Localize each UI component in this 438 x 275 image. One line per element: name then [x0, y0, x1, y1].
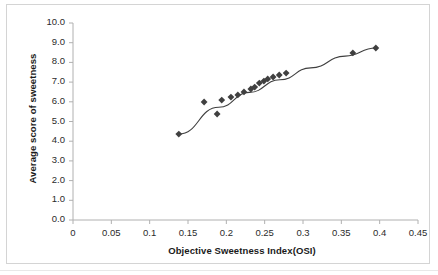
x-tick-label: 0.15 — [168, 227, 208, 238]
x-tick-label: 0.1 — [130, 227, 170, 238]
y-axis-title: Average score of sweetness — [27, 34, 38, 204]
data-point-marker — [218, 97, 225, 104]
x-tick-label: 0 — [53, 227, 93, 238]
x-tick-label: 0.2 — [206, 227, 246, 238]
axis-lines — [73, 23, 418, 220]
data-points — [175, 45, 379, 138]
x-tick-label: 0.05 — [91, 227, 131, 238]
data-point-marker — [201, 99, 208, 106]
trendline — [179, 48, 376, 134]
scatter-plot-canvas — [7, 5, 431, 265]
data-point-marker — [234, 92, 241, 99]
y-tick-label: 0.0 — [31, 213, 65, 224]
x-tick-label: 0.4 — [360, 227, 400, 238]
data-point-marker — [283, 70, 290, 77]
bottom-edge-shadow — [0, 270, 438, 271]
data-point-marker — [276, 72, 283, 79]
x-tick-label: 0.35 — [321, 227, 361, 238]
data-point-marker — [175, 131, 182, 138]
data-point-marker — [372, 45, 379, 52]
x-tick-label: 0.25 — [245, 227, 285, 238]
data-point-marker — [214, 111, 221, 118]
tick-marks — [69, 23, 418, 224]
data-point-marker — [228, 94, 235, 101]
y-tick-label: 10.0 — [31, 16, 65, 27]
chart-frame: 0.01.02.03.04.05.06.07.08.09.010.000.050… — [6, 4, 430, 264]
x-axis-title: Objective Sweetness Index(OSI) — [67, 245, 417, 256]
x-tick-label: 0.3 — [283, 227, 323, 238]
x-tick-label: 0.45 — [398, 227, 438, 238]
